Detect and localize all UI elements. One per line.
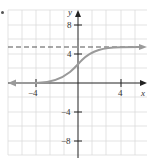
x-axis-label: x [140, 88, 145, 98]
y-tick-neg8: −8 [61, 136, 71, 146]
x-tick-4: 4 [118, 88, 123, 98]
x-tick-neg4: −4 [28, 88, 38, 98]
y-tick-4: 4 [67, 49, 72, 59]
logistic-graph: y x 8 4 −4 −8 −4 4 [0, 0, 147, 161]
y-axis-label: y [67, 7, 72, 17]
axes [8, 14, 143, 158]
y-tick-neg4: −4 [61, 107, 71, 117]
y-tick-8: 8 [67, 20, 72, 30]
x-axis-arrow-icon [140, 80, 147, 86]
curve-left-arrow-icon [8, 80, 16, 87]
asymptote-arrow-icon [139, 44, 147, 50]
y-axis-arrow-icon [75, 10, 81, 17]
